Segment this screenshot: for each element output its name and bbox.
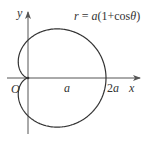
tick-label-a: a — [64, 81, 70, 95]
equation-label: r = a(1+cosθ) — [74, 9, 140, 23]
origin-point — [27, 77, 30, 80]
tick-label-2a: 2a — [107, 81, 119, 95]
equation-open: (1+cos — [97, 9, 130, 23]
equation-equals: = — [79, 9, 92, 23]
tick-2a-variable: a — [113, 81, 119, 95]
y-axis-label: y — [16, 6, 23, 20]
origin-label: O — [11, 82, 20, 96]
equation-close: ) — [136, 9, 140, 23]
cardioid-figure: y x O a 2a r = a(1+cosθ) — [0, 0, 151, 144]
x-axis-label: x — [128, 81, 135, 95]
